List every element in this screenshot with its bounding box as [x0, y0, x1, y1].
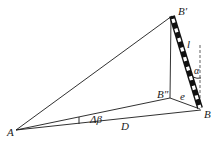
label-A: A	[7, 127, 14, 138]
label-B: B	[204, 109, 211, 120]
label-e: e	[180, 91, 185, 102]
leveling-staff	[172, 16, 200, 108]
diagram-stage: B′ l α B″ e B A Δβ D	[0, 0, 219, 151]
geometry-figure	[0, 0, 219, 151]
line-A-B	[16, 110, 201, 130]
line-Bprime-Bdoubleprime	[170, 17, 171, 98]
label-alpha: α	[194, 66, 199, 76]
label-B-prime: B′	[178, 6, 187, 17]
label-l: l	[187, 39, 190, 50]
label-delta-beta: Δβ	[90, 114, 102, 125]
label-D: D	[121, 121, 129, 132]
label-B-double-prime: B″	[157, 89, 168, 100]
